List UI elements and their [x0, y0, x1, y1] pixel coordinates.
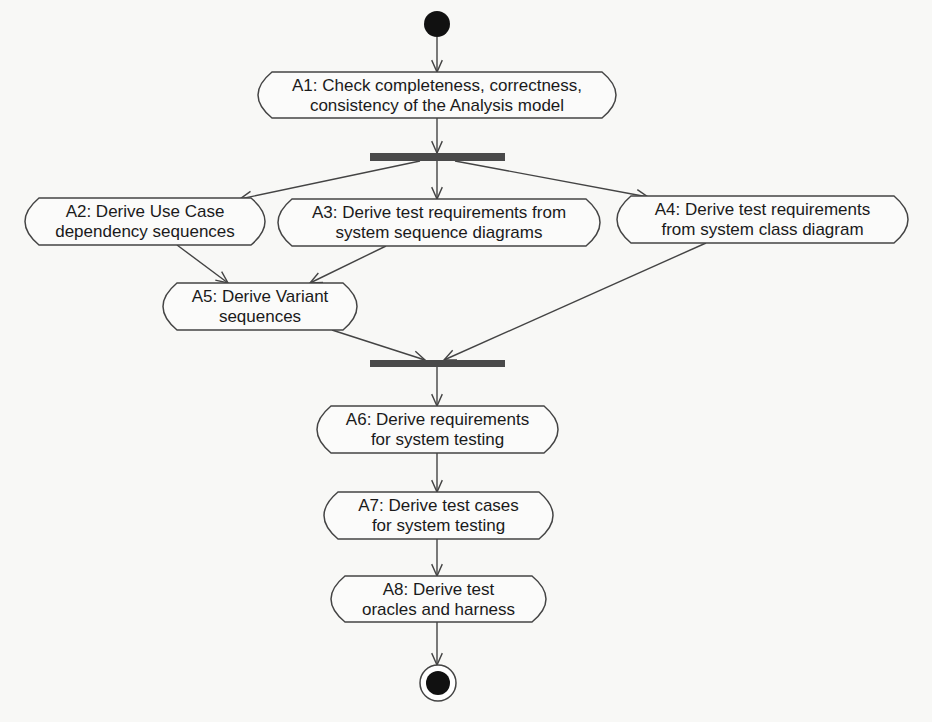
activity-label-line: for system testing — [371, 430, 504, 449]
transition-arrow — [177, 245, 228, 283]
activity-a3: A3: Derive test requirements fromsystem … — [278, 199, 600, 246]
transition-arrow — [332, 330, 425, 361]
transition-arrow — [432, 367, 443, 406]
activity-label-line: A8: Derive test — [383, 580, 495, 599]
activity-a1: A1: Check completeness, correctness,cons… — [258, 72, 616, 118]
transition-arrow — [432, 118, 443, 153]
activity-label-line: from system class diagram — [661, 220, 863, 239]
final-node-icon — [420, 665, 456, 701]
transition-arrow — [310, 246, 386, 283]
diagram-svg: A1: Check completeness, correctness,cons… — [0, 0, 932, 722]
activity-a5: A5: Derive Variantsequences — [163, 283, 357, 330]
activity-label-line: A7: Derive test cases — [358, 496, 519, 515]
fork-bar — [370, 153, 505, 161]
initial-node-icon — [424, 11, 450, 37]
transition-arrow — [432, 539, 443, 576]
activity-a8: A8: Derive testoracles and harness — [331, 576, 546, 622]
activity-diagram: A1: Check completeness, correctness,cons… — [0, 0, 932, 722]
activity-a4: A4: Derive test requirementsfrom system … — [617, 196, 908, 243]
activity-label-line: A4: Derive test requirements — [655, 200, 870, 219]
transition-arrow — [455, 161, 648, 200]
activity-label-line: sequences — [219, 307, 301, 326]
transition-arrow — [432, 37, 443, 72]
transitions — [177, 37, 706, 665]
activity-label-line: A5: Derive Variant — [192, 287, 329, 306]
activity-label-line: A1: Check completeness, correctness, — [292, 76, 582, 95]
activity-label-line: system sequence diagrams — [336, 223, 543, 242]
activity-label-line: for system testing — [372, 516, 505, 535]
activity-label-line: consistency of the Analysis model — [310, 96, 564, 115]
activity-label-line: A3: Derive test requirements from — [312, 203, 566, 222]
activity-label-line: oracles and harness — [362, 600, 515, 619]
activity-label-line: A6: Derive requirements — [346, 410, 529, 429]
activity-a2: A2: Derive Use Casedependency sequences — [25, 198, 265, 245]
activity-a7: A7: Derive test casesfor system testing — [324, 492, 553, 539]
transition-arrow — [432, 453, 443, 492]
activity-label-line: A2: Derive Use Case — [66, 202, 225, 221]
transition-arrow — [432, 622, 443, 665]
join-bar — [370, 360, 505, 367]
transition-arrow — [444, 243, 706, 360]
activity-label-line: dependency sequences — [55, 222, 235, 241]
activity-a6: A6: Derive requirementsfor system testin… — [317, 406, 558, 453]
transition-arrow — [240, 161, 420, 202]
transition-arrow — [432, 161, 443, 199]
